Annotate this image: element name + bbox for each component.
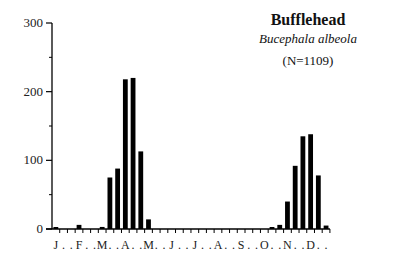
x-month-label: S bbox=[238, 238, 245, 252]
x-dot-label: . bbox=[132, 238, 135, 252]
x-dot-label: . bbox=[255, 238, 258, 252]
x-month-label: A bbox=[214, 238, 223, 252]
bar bbox=[308, 134, 313, 229]
bar bbox=[324, 226, 329, 229]
x-dot-label: . bbox=[62, 238, 65, 252]
bar bbox=[301, 136, 306, 229]
x-dot-label: . bbox=[271, 238, 274, 252]
x-month-label: M bbox=[97, 238, 108, 252]
y-tick-label: 100 bbox=[24, 152, 44, 167]
x-month-label: N bbox=[283, 238, 292, 252]
x-dot-label: . bbox=[93, 238, 96, 252]
bar bbox=[123, 79, 128, 229]
bar bbox=[285, 202, 290, 229]
bar bbox=[53, 227, 58, 229]
x-month-label: J bbox=[192, 238, 197, 252]
bar bbox=[138, 151, 143, 229]
x-dot-label: . bbox=[325, 238, 328, 252]
bar bbox=[146, 219, 151, 229]
x-dot-label: . bbox=[155, 238, 158, 252]
bar bbox=[270, 227, 275, 229]
x-month-label: O bbox=[260, 238, 269, 252]
x-dot-label: . bbox=[201, 238, 204, 252]
bar bbox=[115, 169, 120, 229]
bar bbox=[277, 225, 282, 229]
x-dot-label: . bbox=[232, 238, 235, 252]
x-dot-label: . bbox=[247, 238, 250, 252]
y-tick-label: 300 bbox=[24, 15, 44, 30]
x-month-label: F bbox=[76, 238, 83, 252]
x-month-label: J bbox=[54, 238, 59, 252]
bar bbox=[108, 178, 113, 230]
x-dot-label: . bbox=[85, 238, 88, 252]
x-dot-label: . bbox=[317, 238, 320, 252]
bar bbox=[316, 175, 321, 229]
bar bbox=[293, 166, 298, 229]
x-dot-label: . bbox=[116, 238, 119, 252]
x-month-label: A bbox=[121, 238, 130, 252]
x-month-label: D bbox=[306, 238, 315, 252]
bar bbox=[131, 78, 136, 229]
x-dot-label: . bbox=[70, 238, 73, 252]
x-dot-label: . bbox=[224, 238, 227, 252]
x-dot-label: . bbox=[209, 238, 212, 252]
bar bbox=[100, 227, 105, 229]
x-dot-label: . bbox=[278, 238, 281, 252]
x-month-label: M bbox=[143, 238, 154, 252]
bar-chart: 0100200300J..F..M..A..M..J..J..A..S..O..… bbox=[0, 0, 408, 268]
x-dot-label: . bbox=[186, 238, 189, 252]
x-dot-label: . bbox=[294, 238, 297, 252]
y-tick-label: 200 bbox=[24, 84, 44, 99]
x-month-label: J bbox=[169, 238, 174, 252]
x-dot-label: . bbox=[108, 238, 111, 252]
x-dot-label: . bbox=[139, 238, 142, 252]
bar bbox=[77, 225, 82, 229]
x-dot-label: . bbox=[162, 238, 165, 252]
x-dot-label: . bbox=[178, 238, 181, 252]
x-dot-label: . bbox=[301, 238, 304, 252]
y-tick-label: 0 bbox=[37, 221, 44, 236]
